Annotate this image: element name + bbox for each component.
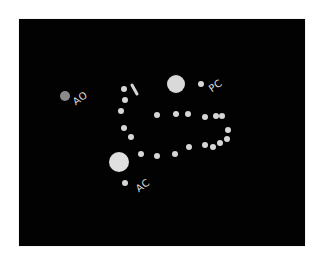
streak-mark (132, 85, 137, 94)
trail-dot (128, 134, 134, 140)
trail-dot (154, 112, 160, 118)
marker-dot (122, 180, 128, 186)
trail-dot (224, 136, 230, 142)
trail-dot (121, 125, 127, 131)
trail-dot (185, 111, 191, 117)
trail-dot (202, 142, 208, 148)
trail-dot (217, 140, 223, 146)
dot-layer (0, 0, 316, 265)
landmark-dot-ao (60, 91, 70, 101)
landmark-dot-ac (109, 152, 129, 172)
trail-dot (219, 113, 225, 119)
figure: AOPCAC (0, 0, 316, 265)
trail-dot (202, 114, 208, 120)
trail-dot (213, 113, 219, 119)
trail-dot (173, 111, 179, 117)
marker-dot (198, 81, 204, 87)
trail-dot (225, 127, 231, 133)
trail-dot (186, 144, 192, 150)
trail-dot (121, 86, 127, 92)
trail-dot (210, 144, 216, 150)
trail-dot (122, 97, 128, 103)
trail-dot (172, 151, 178, 157)
trail-dot (118, 108, 124, 114)
landmark-dot-pc (167, 75, 185, 93)
trail-dot (154, 153, 160, 159)
trail-dot (138, 151, 144, 157)
